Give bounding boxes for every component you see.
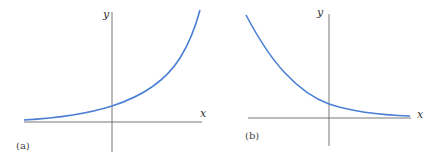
figure: y x (a) y x (b) [0,0,443,158]
panel-label: (b) [245,130,259,141]
panel-a: y x (a) [16,8,207,152]
panel-b: y x (b) [245,6,424,146]
decay-curve [246,15,410,116]
y-axis-label: y [316,6,324,19]
panel-label: (a) [16,140,30,151]
x-axis-label: x [200,107,207,120]
y-axis-label: y [102,8,110,21]
x-axis-label: x [417,108,424,121]
